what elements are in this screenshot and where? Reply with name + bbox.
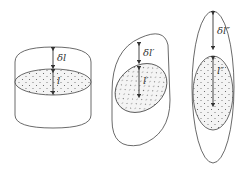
length-label: l′: [143, 75, 149, 86]
oblique-figure: δl′ l′: [105, 34, 176, 146]
gap-label: δl″: [217, 25, 230, 36]
cylinder-figure: δl l: [15, 47, 91, 128]
diagram-stage: δl l δl′ l′ δl″ l″: [0, 0, 249, 171]
three-shapes-diagram: δl l δl′ l′ δl″ l″: [0, 0, 249, 171]
gap-label: δl′: [143, 47, 155, 58]
elongated-figure: δl″ l″: [192, 11, 234, 163]
length-label: l″: [217, 65, 224, 76]
gap-label: δl: [57, 52, 66, 63]
length-label: l: [57, 75, 60, 86]
